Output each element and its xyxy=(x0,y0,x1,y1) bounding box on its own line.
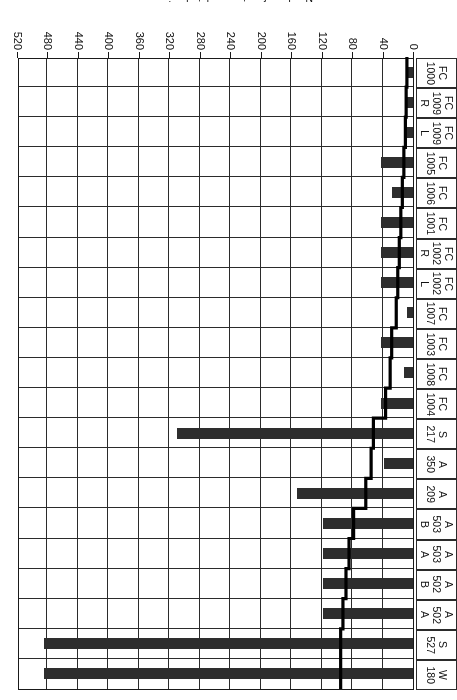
tick-label: 0 xyxy=(408,44,420,50)
cumulative-step-line xyxy=(17,57,413,689)
category-label: FC1002L xyxy=(416,269,457,299)
category-label-line: 217 xyxy=(425,425,436,443)
category-label-line: A xyxy=(443,551,454,558)
category-label-line: S xyxy=(437,641,448,648)
tick-label: 320 xyxy=(164,32,176,50)
value-axis-ticks: 04080120160200240280320360400440480520 xyxy=(18,12,414,58)
category-label-line: 1004 xyxy=(425,392,436,415)
category-label-line: 1009 xyxy=(431,91,442,114)
category-label: A209 xyxy=(416,479,457,509)
plot-area xyxy=(18,58,414,690)
category-label-line: 527 xyxy=(425,636,436,654)
category-label-line: R xyxy=(419,99,430,107)
category-label-line: 1008 xyxy=(425,362,436,385)
category-label-line: R xyxy=(419,250,430,258)
tick-mark xyxy=(47,52,48,58)
category-label: FC1005 xyxy=(416,148,457,178)
tick-mark xyxy=(17,52,18,58)
tick-label: 280 xyxy=(195,32,207,50)
category-label-line: A xyxy=(443,521,454,528)
tick-mark xyxy=(200,52,201,58)
category-label-line: 1003 xyxy=(425,332,436,355)
category-label-line: 1000 xyxy=(425,61,436,84)
category-label-line: W xyxy=(437,670,448,680)
category-label-line: 180 xyxy=(425,666,436,684)
category-label-line: L xyxy=(419,130,430,136)
category-label-line: 502 xyxy=(431,606,442,624)
category-label: FC1008 xyxy=(416,359,457,389)
tick-label: 80 xyxy=(347,38,359,50)
category-label: W180 xyxy=(416,660,457,690)
tick-mark xyxy=(352,52,353,58)
category-label-line: 1007 xyxy=(425,302,436,325)
category-label-line: A xyxy=(437,491,448,498)
tick-label: 200 xyxy=(256,32,268,50)
category-label-line: FC xyxy=(437,156,448,170)
tick-mark xyxy=(169,52,170,58)
category-label-line: FC xyxy=(437,397,448,411)
category-label: FC1001 xyxy=(416,208,457,238)
step-line-path xyxy=(341,57,407,689)
tick-label: 40 xyxy=(378,38,390,50)
category-label-line: 503 xyxy=(431,516,442,534)
category-label-line: A xyxy=(419,611,430,618)
tick-label: 400 xyxy=(103,32,115,50)
category-label: S527 xyxy=(416,630,457,660)
category-label-line: 1002 xyxy=(431,272,442,295)
category-label-line: FC xyxy=(437,367,448,381)
category-label-line: A xyxy=(443,611,454,618)
tick-label: 120 xyxy=(317,32,329,50)
tick-label: 440 xyxy=(73,32,85,50)
tick-label: 520 xyxy=(12,32,24,50)
tick-label: 160 xyxy=(286,32,298,50)
category-label-line: A xyxy=(437,461,448,468)
category-label-line: FC xyxy=(443,247,454,261)
category-label-line: B xyxy=(419,521,430,528)
category-label-line: FC xyxy=(437,66,448,80)
category-label: FC1007 xyxy=(416,299,457,329)
category-label: A503A xyxy=(416,540,457,570)
category-label-line: FC xyxy=(437,186,448,200)
category-label-line: 350 xyxy=(425,456,436,474)
category-label-line: FC xyxy=(443,96,454,110)
tick-mark xyxy=(261,52,262,58)
category-label: FC1009R xyxy=(416,88,457,118)
category-label: A350 xyxy=(416,449,457,479)
category-label-line: FC xyxy=(443,277,454,291)
category-label: A502A xyxy=(416,600,457,630)
category-label-line: 502 xyxy=(431,576,442,594)
tick-mark xyxy=(322,52,323,58)
tick-mark xyxy=(230,52,231,58)
category-label-line: A xyxy=(419,551,430,558)
category-label-line: 1002 xyxy=(431,242,442,265)
category-label: A503B xyxy=(416,509,457,539)
category-label: FC1002R xyxy=(416,239,457,269)
tick-mark xyxy=(108,52,109,58)
category-label-line: FC xyxy=(437,217,448,231)
category-label-line: 1005 xyxy=(425,152,436,175)
tick-mark xyxy=(291,52,292,58)
category-label-line: B xyxy=(419,581,430,588)
tick-mark xyxy=(383,52,384,58)
plot-wrapper: W180S527A502AA502BA503AA503BA209A350S217… xyxy=(18,58,414,690)
category-label-line: S xyxy=(437,431,448,438)
category-label-line: 209 xyxy=(425,486,436,504)
value-axis-title: Number of parts completed or in progress xyxy=(18,0,414,4)
category-label-line: 1006 xyxy=(425,182,436,205)
category-label: FC1000 xyxy=(416,58,457,88)
tick-mark xyxy=(413,52,414,58)
tick-label: 240 xyxy=(225,32,237,50)
category-label-line: 1001 xyxy=(425,212,436,235)
category-label-line: L xyxy=(419,281,430,287)
category-label: A502B xyxy=(416,570,457,600)
category-label: FC1004 xyxy=(416,389,457,419)
category-label-line: A xyxy=(443,581,454,588)
tick-mark xyxy=(139,52,140,58)
tick-mark xyxy=(78,52,79,58)
category-label: FC1006 xyxy=(416,178,457,208)
category-label: FC1003 xyxy=(416,329,457,359)
category-label: S217 xyxy=(416,419,457,449)
category-label-line: 1009 xyxy=(431,122,442,145)
